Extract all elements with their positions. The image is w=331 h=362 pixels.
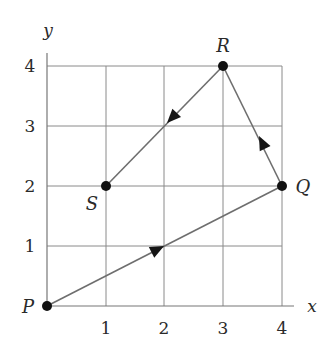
label-p: P [21, 296, 35, 317]
coordinate-diagram: 1 2 3 4 1 2 3 4 y x [0, 0, 331, 362]
y-tick-2: 2 [25, 176, 36, 196]
y-axis-label: y [42, 20, 53, 40]
point-r [218, 61, 228, 71]
label-r: R [215, 35, 230, 56]
x-tick-3: 3 [218, 318, 229, 338]
y-tick-1: 1 [25, 236, 36, 256]
x-tick-2: 2 [159, 318, 170, 338]
point-q [277, 181, 287, 191]
grid [47, 66, 282, 306]
x-axis-label: x [307, 296, 317, 316]
x-tick-1: 1 [101, 318, 112, 338]
axes [47, 53, 294, 306]
arrow-q-r-icon [254, 133, 271, 151]
point-p [42, 301, 52, 311]
y-tick-3: 3 [25, 116, 36, 136]
label-s: S [86, 193, 98, 214]
y-tick-4: 4 [25, 56, 36, 76]
point-s [101, 181, 111, 191]
label-q: Q [296, 176, 311, 197]
x-tick-4: 4 [277, 318, 288, 338]
